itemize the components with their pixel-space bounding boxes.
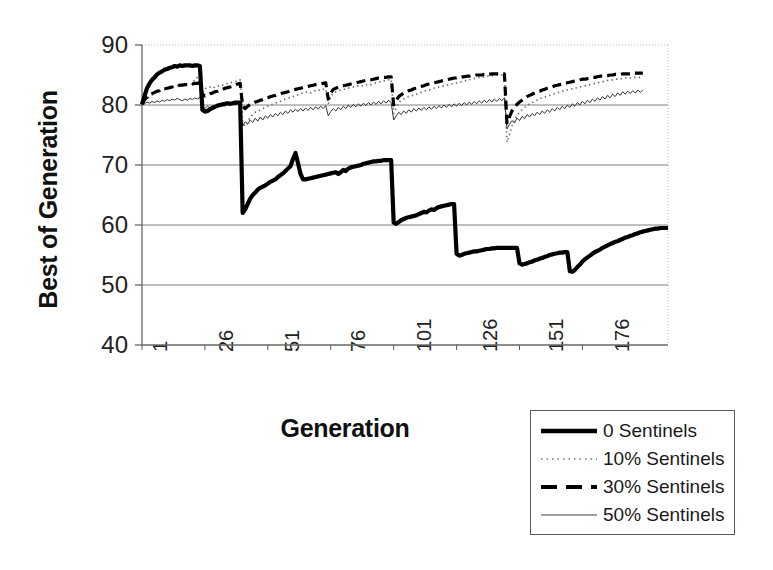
legend-label: 0 Sentinels bbox=[603, 420, 697, 442]
legend: 0 Sentinels 10% Sentinels 30% Sentinels … bbox=[530, 410, 735, 535]
legend-swatch-dashed bbox=[539, 480, 601, 494]
data-series-layer bbox=[142, 65, 668, 271]
legend-swatch-thick-solid bbox=[539, 424, 601, 438]
x-tick-label-76: 76 bbox=[348, 330, 368, 352]
legend-item-30-sentinels[interactable]: 30% Sentinels bbox=[531, 473, 734, 501]
x-tick-label-126: 126 bbox=[480, 319, 500, 352]
y-tick-label-40: 40 bbox=[78, 333, 128, 357]
y-axis-title: Best of Generation bbox=[34, 50, 63, 350]
legend-swatch-thin-solid bbox=[539, 508, 601, 522]
legend-item-10-sentinels[interactable]: 10% Sentinels bbox=[531, 445, 734, 473]
x-tick-label-151: 151 bbox=[546, 319, 566, 352]
x-tick-label-26: 26 bbox=[216, 330, 236, 352]
legend-item-50-sentinels[interactable]: 50% Sentinels bbox=[531, 501, 734, 529]
legend-label: 30% Sentinels bbox=[603, 476, 724, 498]
legend-label: 10% Sentinels bbox=[603, 448, 724, 470]
legend-label: 50% Sentinels bbox=[603, 504, 724, 526]
axis-lines bbox=[135, 45, 668, 350]
x-tick-label-1: 1 bbox=[150, 341, 170, 352]
y-tick-label-90: 90 bbox=[78, 33, 128, 57]
x-tick-label-51: 51 bbox=[282, 330, 302, 352]
x-tick-label-176: 176 bbox=[612, 319, 632, 352]
y-tick-label-70: 70 bbox=[78, 153, 128, 177]
x-tick-label-101: 101 bbox=[414, 319, 434, 352]
legend-item-0-sentinels[interactable]: 0 Sentinels bbox=[531, 417, 734, 445]
y-tick-label-60: 60 bbox=[78, 213, 128, 237]
y-tick-label-80: 80 bbox=[78, 93, 128, 117]
y-tick-label-50: 50 bbox=[78, 273, 128, 297]
grid-lines bbox=[142, 45, 668, 345]
legend-swatch-dotted bbox=[539, 452, 601, 466]
x-axis-title: Generation bbox=[180, 414, 510, 443]
chart-figure: Best of Generation 90 80 70 60 50 40 1 2… bbox=[0, 0, 773, 570]
